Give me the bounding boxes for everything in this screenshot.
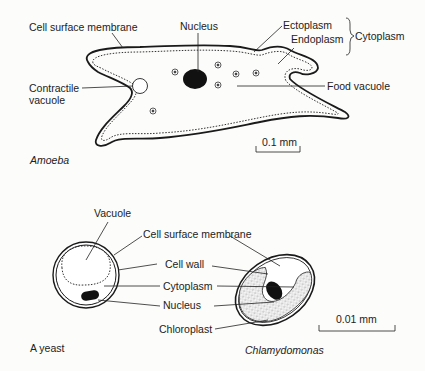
- label-endoplasm: Endoplasm: [291, 33, 344, 45]
- chlamydomonas-scale-label: 0.01 mm: [336, 313, 377, 325]
- cytoplasm-brace: [346, 18, 354, 55]
- caption-amoeba: Amoeba: [29, 154, 69, 166]
- label-ectoplasm: Ectoplasm: [283, 19, 332, 31]
- label-chloroplast: Chloroplast: [159, 323, 212, 335]
- leader-contractile-vacuole: [82, 86, 133, 88]
- label-cell-surface-membrane: Cell surface membrane: [29, 21, 138, 33]
- chlamydomonas-scale-bar: [319, 325, 395, 331]
- amoeba-scale-label: 0.1 mm: [262, 136, 297, 148]
- caption-yeast: A yeast: [30, 342, 65, 354]
- label-cell-wall: Cell wall: [165, 258, 204, 270]
- label-cytoplasm: Cytoplasm: [355, 30, 405, 42]
- caption-chlamydomonas: Chlamydomonas: [245, 344, 325, 356]
- cell-diagram: Cell surface membrane Nucleus Ectoplasm …: [0, 0, 425, 371]
- leader-yeast-wall: [118, 264, 157, 270]
- label-contractile-vacuole-line1: Contractile: [29, 82, 79, 94]
- label-food-vacuole: Food vacuole: [327, 80, 390, 92]
- leader-chlamy-membrane: [230, 236, 280, 266]
- yeast-drawing: [53, 242, 119, 308]
- amoeba-contractile-vacuole: [133, 79, 148, 94]
- amoeba-food-vacuoles: [150, 62, 259, 114]
- leader-yeast-nucleus: [98, 300, 160, 306]
- label-contractile-vacuole-line2: vacuole: [29, 94, 65, 106]
- label-nucleus: Nucleus: [180, 20, 218, 32]
- leader-yeast-membrane: [114, 236, 142, 255]
- label-cytoplasm-2: Cytoplasm: [163, 280, 213, 292]
- label-vacuole: Vacuole: [94, 207, 131, 219]
- label-cell-surface-membrane-2: Cell surface membrane: [143, 228, 252, 240]
- label-nucleus-2: Nucleus: [163, 299, 201, 311]
- amoeba-cell-membrane: [87, 45, 349, 146]
- amoeba-nucleus: [183, 69, 207, 89]
- leader-cell-surface-membrane: [112, 33, 123, 48]
